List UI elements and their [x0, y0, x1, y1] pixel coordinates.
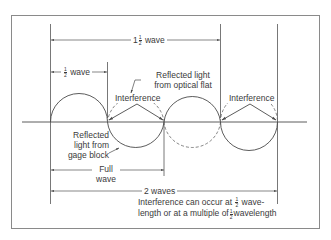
label-full-wave: Full wave: [92, 164, 120, 184]
label-reflected-optical-flat: Reflected light from optical flat: [145, 70, 221, 90]
wave-arc-1-top: [51, 94, 108, 122]
wave-arc-4-bottom: [221, 122, 278, 151]
interference-arrow-2: [222, 104, 276, 120]
label-interference-2: Interference: [227, 93, 276, 103]
label-half-wave: 12 wave: [61, 67, 92, 78]
label-two-waves: 2 waves: [142, 186, 177, 196]
label-one-and-half-wave: 112 wave: [131, 35, 167, 46]
wave-arc-3-top: [164, 97, 221, 122]
wave-arc-2-bottom: [108, 122, 165, 147]
leader-optical-flat: [131, 80, 141, 93]
interference-note: Interference can occur at 12 wave- lengt…: [136, 197, 279, 220]
wave-arc-3-bottom-dashed: [164, 122, 221, 147]
label-interference-1: Interference: [113, 93, 162, 103]
interference-arrow-1: [109, 104, 163, 120]
label-reflected-gage-block: Reflected light from gage block: [63, 130, 111, 160]
